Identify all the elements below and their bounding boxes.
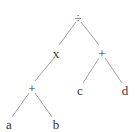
node-plus-right: + — [98, 46, 105, 61]
node-b: b — [53, 117, 60, 132]
edges — [12, 22, 122, 117]
node-c: c — [77, 83, 83, 98]
node-times: x — [53, 46, 60, 61]
edge-times-plus-left — [35, 58, 54, 81]
edge-plus-right-d — [105, 58, 122, 83]
edge-plus-left-a — [12, 93, 29, 117]
nodes: ÷ x + + c d a b — [6, 10, 129, 132]
edge-root-times — [59, 22, 76, 45]
expression-tree-diagram: ÷ x + + c d a b — [0, 0, 136, 132]
edge-plus-right-c — [83, 58, 99, 83]
edge-root-plus-right — [81, 22, 99, 45]
node-d: d — [122, 83, 129, 98]
node-plus-left: + — [28, 81, 35, 96]
node-a: a — [6, 117, 12, 132]
node-root-divide: ÷ — [74, 10, 81, 25]
edge-plus-left-b — [35, 93, 52, 117]
